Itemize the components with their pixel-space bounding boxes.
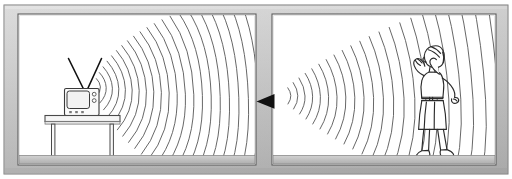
floor-left (19, 156, 255, 165)
tv-knob-lower (92, 99, 96, 103)
tv-knob-upper (92, 92, 96, 96)
table-top (45, 116, 120, 122)
skirt (419, 101, 447, 130)
neck-left (429, 67, 430, 72)
right-panel (272, 0, 512, 179)
illustration-root (0, 0, 512, 179)
right-panel-window (272, 14, 496, 165)
left-panel (18, 0, 268, 179)
tv-button-2 (75, 111, 78, 113)
tv-screen (67, 91, 90, 109)
table-apron (45, 122, 120, 125)
floor-right (273, 156, 495, 165)
tv-button-1 (69, 111, 72, 113)
tv-button-3 (81, 111, 84, 113)
television-set (65, 89, 100, 116)
figure-canvas (0, 0, 512, 179)
